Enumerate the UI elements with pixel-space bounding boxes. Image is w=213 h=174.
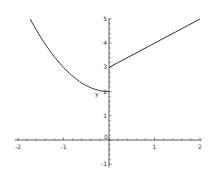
y-tick-label: 5 xyxy=(103,15,107,22)
y-tick-label: 2 xyxy=(103,88,107,95)
y-tick-label: -1 xyxy=(101,160,107,167)
x-tick-label: 1 xyxy=(153,143,157,150)
piecewise-function-plot: -2-1012-112345y xyxy=(0,0,213,174)
series xyxy=(30,19,200,92)
y-tick-label: 4 xyxy=(103,39,107,46)
x-tick-label: 2 xyxy=(198,143,202,150)
x-tick-label: 0 xyxy=(104,133,108,140)
y-tick-label: 1 xyxy=(103,112,107,119)
series-line xyxy=(109,19,200,67)
x-tick-label: -2 xyxy=(15,143,21,150)
y-tick-label: 3 xyxy=(103,63,107,70)
x-tick-label: -1 xyxy=(61,143,67,150)
annotation-label: y xyxy=(95,90,99,98)
series-line xyxy=(30,19,109,91)
